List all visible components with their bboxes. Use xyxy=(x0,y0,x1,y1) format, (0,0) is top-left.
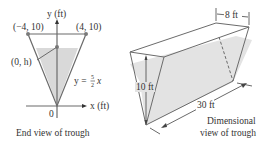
point-right-top xyxy=(84,32,88,36)
length-arrow-front-icon xyxy=(161,123,167,128)
equation-numerator: 5 xyxy=(91,74,94,80)
dimensional-caption-line2: view of trough xyxy=(200,128,256,138)
trough-diagram: y (ft) x (ft) 0 (−4, 10) (4, 10) (0, h) … xyxy=(0,0,268,148)
x-axis-label: x (ft) xyxy=(90,101,109,112)
x-axis-arrow-icon xyxy=(82,104,87,108)
height-arrow-top-icon xyxy=(145,55,148,60)
equation-lhs: y = xyxy=(74,76,86,86)
end-view: y (ft) x (ft) 0 (−4, 10) (4, 10) (0, h) … xyxy=(11,9,109,138)
length-extension-front xyxy=(150,128,160,134)
equation: y = 5 2 x xyxy=(74,74,102,88)
height-label: 10 ft xyxy=(136,82,154,92)
dimensional-caption-line1: Dimensional xyxy=(207,116,256,126)
length-label: 30 ft xyxy=(197,100,215,110)
right-point-label: (4, 10) xyxy=(76,22,101,33)
width-label: 8 ft xyxy=(225,10,238,20)
point-left-top xyxy=(26,32,30,36)
equation-variable: x xyxy=(96,76,102,86)
left-point-label: (−4, 10) xyxy=(13,22,44,33)
dimensional-view: 10 ft 8 ft 30 ft Dimensional view of tro… xyxy=(130,8,256,138)
end-view-caption: End view of trough xyxy=(16,128,90,138)
y-axis-arrow-icon xyxy=(55,19,59,24)
y-axis-label: y (ft) xyxy=(47,9,66,20)
equation-denominator: 2 xyxy=(91,82,94,88)
origin-label: 0 xyxy=(49,109,54,119)
water-volume xyxy=(130,36,252,125)
top-right-end-edge xyxy=(216,23,249,27)
water-point-label: (0, h) xyxy=(11,57,32,68)
